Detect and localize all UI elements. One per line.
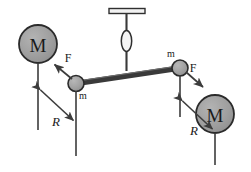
small-mass-right-group: m [167, 48, 188, 117]
force-left-label: F [65, 51, 72, 65]
small-mass-left-group: m [68, 76, 87, 157]
fiber-mirror-bob [121, 31, 131, 52]
torsion-rod-highlight [76, 66, 180, 82]
force-right-label: F [190, 61, 197, 75]
torsion-balance-diagram: M m F R m F [0, 0, 251, 172]
force-left-group: F [55, 51, 73, 79]
distance-right-label: R [189, 123, 198, 138]
small-mass-left-label: m [79, 90, 87, 101]
force-right-group: F [186, 61, 203, 87]
distance-left-group: R [41, 90, 74, 129]
large-mass-left-label: M [30, 35, 47, 56]
force-arrow-up-left [55, 65, 73, 80]
figure-canvas: M m F R m F [0, 0, 251, 172]
large-mass-right-group: M [196, 95, 234, 165]
small-mass-right-sphere [172, 60, 188, 76]
support-bar-group [109, 9, 145, 14]
torsion-rod [76, 68, 180, 84]
distance-left-label: R [51, 114, 60, 129]
small-mass-right-label: m [167, 48, 175, 59]
large-mass-right-label: M [207, 105, 224, 126]
horizontal-support-bar [109, 9, 145, 14]
